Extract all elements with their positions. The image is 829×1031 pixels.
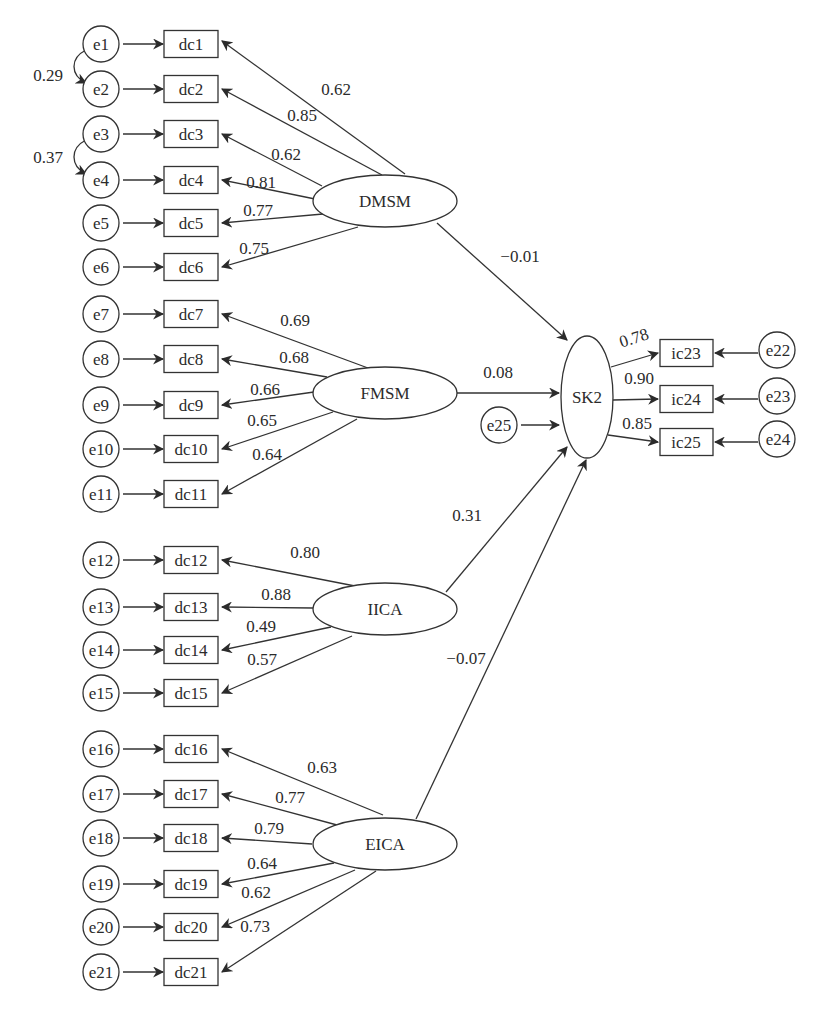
error-term-label: e21	[89, 963, 114, 982]
loading-arrow	[222, 359, 327, 377]
latent-factor-label: DMSM	[359, 192, 411, 211]
indicator-label: dc9	[179, 396, 204, 415]
path-coefficient: 0.08	[483, 363, 513, 382]
error-term-label: e22	[766, 341, 791, 360]
indicator-label: dc11	[175, 485, 207, 504]
loading-coefficient: 0.62	[241, 883, 271, 902]
loading-arrow	[222, 419, 357, 494]
loading-coefficient: 0.81	[246, 173, 276, 192]
loading-arrow	[222, 863, 334, 884]
loading-coefficient: 0.80	[290, 543, 320, 562]
indicator-label: dc6	[179, 258, 204, 277]
indicator-label: dc12	[174, 551, 207, 570]
outcome-loading-arrow	[608, 435, 658, 442]
error-term-label: e12	[89, 551, 114, 570]
loading-coefficient: 0.66	[250, 380, 280, 399]
outcome-loading-arrow	[613, 399, 658, 400]
error-term-label: e1	[93, 35, 109, 54]
indicator-label: dc3	[179, 125, 204, 144]
outcome-loading-coefficient: 0.90	[624, 369, 654, 388]
covariance-arrow	[74, 140, 86, 174]
loading-coefficient: 0.65	[247, 411, 277, 430]
structural-path-eica	[416, 460, 586, 819]
outcome-loading-coefficient: 0.85	[622, 414, 652, 433]
error-term-label: e4	[93, 171, 110, 190]
covariance-arrow	[74, 50, 86, 83]
path-coefficient: −0.07	[446, 649, 486, 668]
outcome-indicator-label: ic24	[671, 390, 701, 409]
outcome-indicator-label: ic23	[671, 344, 700, 363]
error-term-label: e3	[93, 125, 109, 144]
error-term-label: e24	[766, 430, 791, 449]
error-term-label: e8	[93, 350, 109, 369]
latent-factor-label: IICA	[368, 600, 404, 619]
loading-arrow	[222, 636, 352, 693]
error-term-label: e11	[89, 485, 113, 504]
error-term-label: e5	[93, 214, 109, 233]
loading-coefficient: 0.79	[254, 819, 284, 838]
indicator-label: dc15	[174, 684, 207, 703]
structural-path-dmsm	[437, 223, 567, 340]
indicator-label: dc7	[179, 305, 204, 324]
loading-coefficient: 0.77	[243, 201, 273, 220]
error-term-label: e2	[93, 80, 109, 99]
covariance-coefficient: 0.37	[33, 148, 63, 167]
loading-coefficient: 0.69	[280, 311, 310, 330]
error-term-label: e10	[89, 440, 114, 459]
error-term-label: e18	[89, 829, 114, 848]
loading-coefficient: 0.57	[247, 650, 277, 669]
covariance-coefficient: 0.29	[33, 66, 63, 85]
loading-arrow	[222, 412, 333, 449]
loading-coefficient: 0.73	[240, 917, 270, 936]
indicator-label: dc19	[174, 875, 207, 894]
disturbance-label: e25	[487, 416, 512, 435]
indicator-label: dc21	[174, 963, 207, 982]
error-term-label: e9	[93, 396, 109, 415]
error-term-label: e20	[89, 918, 114, 937]
indicator-label: dc16	[174, 740, 207, 759]
indicator-label: dc8	[179, 350, 204, 369]
sem-path-diagram: e1dc10.62e2dc20.85e3dc30.62e4dc40.81e5dc…	[0, 0, 829, 1031]
loading-arrow	[222, 560, 355, 586]
error-term-label: e23	[766, 387, 791, 406]
indicator-label: dc4	[179, 171, 204, 190]
path-coefficient: 0.31	[452, 506, 482, 525]
loading-arrow	[222, 607, 313, 608]
indicator-label: dc17	[174, 785, 208, 804]
loading-coefficient: 0.85	[287, 106, 317, 125]
indicator-label: dc20	[174, 918, 207, 937]
indicator-label: dc10	[174, 440, 207, 459]
outcome-indicator-label: ic25	[671, 433, 700, 452]
loading-coefficient: 0.64	[252, 445, 282, 464]
loading-arrow	[222, 838, 312, 844]
loading-coefficient: 0.63	[307, 758, 337, 777]
indicator-label: dc14	[174, 641, 208, 660]
outcome-loading-coefficient: 0.78	[617, 324, 651, 351]
error-term-label: e15	[89, 684, 114, 703]
indicator-label: dc13	[174, 598, 207, 617]
error-term-label: e13	[89, 598, 114, 617]
loading-coefficient: 0.49	[246, 617, 276, 636]
loading-coefficient: 0.68	[279, 348, 309, 367]
outcome-loading-arrow	[611, 353, 658, 367]
latent-factor-label: FMSM	[360, 384, 409, 403]
error-term-label: e19	[89, 875, 114, 894]
error-term-label: e17	[89, 785, 114, 804]
loading-arrow	[222, 627, 331, 650]
error-term-label: e16	[89, 740, 114, 759]
latent-factor-label: SK2	[572, 388, 602, 407]
indicator-label: dc18	[174, 829, 207, 848]
loading-coefficient: 0.62	[271, 145, 301, 164]
loading-coefficient: 0.64	[247, 854, 277, 873]
indicator-label: dc2	[179, 80, 204, 99]
path-coefficient: −0.01	[500, 247, 539, 266]
indicator-label: dc1	[179, 35, 204, 54]
loading-arrow	[222, 89, 382, 175]
latent-factor-label: EICA	[365, 835, 405, 854]
indicator-label: dc5	[179, 214, 204, 233]
error-term-label: e7	[93, 305, 110, 324]
loading-coefficient: 0.62	[321, 80, 351, 99]
loading-coefficient: 0.77	[275, 788, 305, 807]
error-term-label: e6	[93, 258, 109, 277]
error-term-label: e14	[89, 641, 114, 660]
